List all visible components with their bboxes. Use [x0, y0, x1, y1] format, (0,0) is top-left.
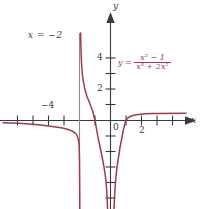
figure-container: x = −2 x y 0 −4 2 2 4 y = x² − 1 x³ + 2x… [0, 0, 202, 209]
origin-label: 0 [113, 123, 119, 132]
y-tick-label-2: 2 [97, 84, 103, 93]
equation-label: y = x² − 1 x³ + 2x² [118, 54, 171, 71]
curve-branch-right [114, 113, 186, 209]
equation-lhs: y = [118, 58, 132, 67]
x-tick-label--4: −4 [41, 101, 54, 110]
equation-denominator: x³ + 2x² [134, 63, 170, 71]
curve-branch-left [3, 123, 80, 209]
x-tick-label-2: 2 [139, 126, 145, 135]
asymptote-label: x = −2 [28, 31, 63, 40]
y-tick-label-4: 4 [97, 53, 103, 62]
y-axis-arrow [106, 12, 114, 23]
x-axis-label: x [191, 116, 196, 125]
y-axis [106, 12, 114, 209]
y-axis-label: y [113, 2, 118, 11]
equation-fraction: x² − 1 x³ + 2x² [134, 54, 170, 71]
